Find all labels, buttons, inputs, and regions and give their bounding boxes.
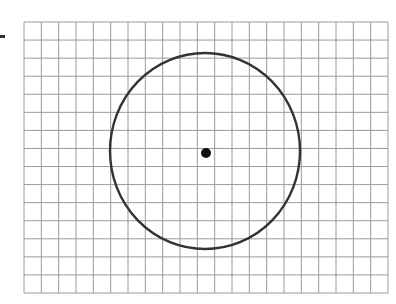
grid-figure <box>0 0 396 304</box>
center-point <box>201 148 211 158</box>
